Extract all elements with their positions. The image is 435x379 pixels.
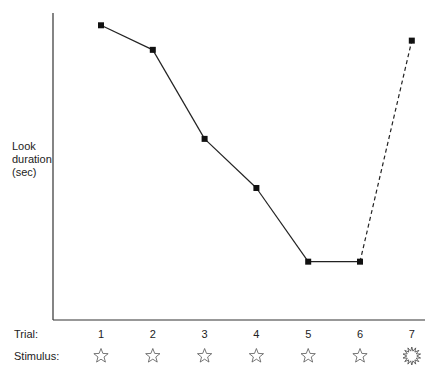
star-stimulus-icon — [94, 349, 108, 363]
data-point-trial-1 — [98, 22, 104, 28]
x-tick-labels: 1234567 — [98, 328, 415, 340]
data-point-trial-7 — [409, 38, 415, 44]
data-point-trial-2 — [150, 47, 156, 53]
star-stimulus-icon — [249, 349, 263, 363]
line-segment-2-3 — [153, 50, 205, 139]
series-markers — [98, 22, 415, 264]
line-segment-4-5 — [256, 188, 308, 262]
data-point-trial-6 — [357, 259, 363, 265]
x-tick-label: 2 — [150, 328, 156, 340]
burst-stimulus-icon — [403, 347, 421, 365]
stimulus-icons — [94, 347, 421, 365]
data-point-trial-5 — [305, 259, 311, 265]
star-stimulus-icon — [197, 349, 211, 363]
x-tick-label: 6 — [357, 328, 363, 340]
trial-row-label: Trial: — [14, 328, 38, 340]
line-segment-3-4 — [205, 139, 257, 188]
x-tick-label: 7 — [409, 328, 415, 340]
x-tick-label: 5 — [305, 328, 311, 340]
series-lines — [101, 25, 412, 261]
y-axis-label-line-1: Look — [12, 140, 36, 152]
star-stimulus-icon — [301, 349, 315, 363]
star-stimulus-icon — [146, 349, 160, 363]
data-point-trial-3 — [202, 136, 208, 142]
data-point-trial-4 — [253, 185, 259, 191]
y-axis-label-line-3: (sec) — [12, 166, 36, 178]
line-segment-1-2 — [101, 25, 153, 50]
y-axis-label-line-2: duration — [12, 153, 52, 165]
stimulus-row-label: Stimulus: — [14, 350, 59, 362]
chart: Look duration (sec) Trial: Stimulus: 123… — [0, 0, 435, 379]
line-segment-6-7 — [360, 41, 412, 262]
star-stimulus-icon — [353, 349, 367, 363]
x-tick-label: 1 — [98, 328, 104, 340]
x-tick-label: 4 — [253, 328, 259, 340]
x-tick-label: 3 — [202, 328, 208, 340]
